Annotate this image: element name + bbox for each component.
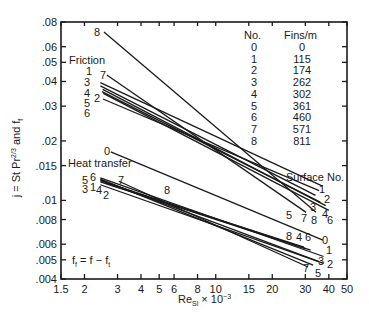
curve-number-label: 6 bbox=[327, 214, 333, 226]
curve-number-label: 5 bbox=[286, 209, 292, 221]
curve-number-label: 8 bbox=[286, 230, 292, 242]
formula-label: ff = f − ft bbox=[72, 254, 110, 268]
table-cell-fins: 361 bbox=[293, 100, 311, 112]
y-tick-label: .06 bbox=[42, 41, 57, 53]
curve-number-label: 0 bbox=[104, 145, 110, 157]
curve-number-label: 7 bbox=[303, 262, 309, 274]
chart: 1.5234568101520304050 .004.005.006.008.0… bbox=[0, 0, 369, 327]
y-tick-label: .004 bbox=[36, 273, 57, 285]
curve-friction-3 bbox=[100, 86, 315, 196]
curve-friction-8 bbox=[104, 32, 316, 212]
curve-heat-transfer-8 bbox=[106, 183, 304, 247]
table-cell-fins: 115 bbox=[293, 53, 311, 65]
curve-number-label: 3 bbox=[310, 201, 316, 213]
x-tick-label: 3 bbox=[114, 283, 120, 295]
curve-number-label: 6 bbox=[84, 107, 90, 119]
y-tick-label: .05 bbox=[42, 56, 57, 68]
table-cell-no: 2 bbox=[251, 64, 257, 76]
table-cell-no: 5 bbox=[251, 100, 257, 112]
table-cell-no: 3 bbox=[251, 76, 257, 88]
table-cell-fins: 0 bbox=[299, 41, 305, 53]
table-cell-no: 6 bbox=[251, 111, 257, 123]
x-tick-label: 4 bbox=[138, 283, 144, 295]
curve-number-label: 2 bbox=[94, 92, 100, 104]
x-tick-label: 40 bbox=[323, 283, 335, 295]
table-cell-fins: 302 bbox=[293, 88, 311, 100]
curve-number-label: 8 bbox=[164, 184, 170, 196]
table-cell-no: 7 bbox=[251, 123, 257, 135]
curve-number-label: 4 bbox=[96, 184, 102, 196]
table-header-fins: Fins/m bbox=[284, 29, 317, 41]
y-tick-label: .02 bbox=[42, 135, 57, 147]
y-tick-label: .08 bbox=[42, 16, 57, 28]
table-header-no: No. bbox=[244, 29, 261, 41]
curve-number-label: 1 bbox=[326, 244, 332, 256]
curve-number-label: 8 bbox=[311, 214, 317, 226]
table-cell-fins: 571 bbox=[293, 123, 311, 135]
y-tick-label: .006 bbox=[36, 238, 57, 250]
curve-number-label: 5 bbox=[315, 267, 321, 279]
table-cell-fins: 811 bbox=[293, 135, 311, 147]
curve-number-label: 3 bbox=[82, 183, 88, 195]
x-tick-label: 5 bbox=[156, 283, 162, 295]
y-tick-label: .005 bbox=[36, 254, 57, 266]
table-cell-no: 1 bbox=[251, 53, 257, 65]
x-tick-label: 15 bbox=[243, 283, 255, 295]
curve-number-label: 8 bbox=[94, 26, 100, 38]
surface-no-label: Surface No. bbox=[286, 171, 344, 183]
y-tick-label: .015 bbox=[36, 160, 57, 172]
x-axis-label: ReSl × 10−3 bbox=[178, 293, 231, 307]
table-cell-fins: 174 bbox=[293, 64, 311, 76]
curve-number-label: 4 bbox=[296, 231, 302, 243]
heat-transfer-label: Heat transfer bbox=[68, 157, 132, 169]
y-tick-label: .03 bbox=[42, 100, 57, 112]
table-cell-no: 4 bbox=[251, 88, 257, 100]
x-tick-label: 20 bbox=[266, 283, 278, 295]
curve-number-label: 3 bbox=[318, 255, 324, 267]
table-cell-fins: 460 bbox=[293, 111, 311, 123]
y-tick-label: .04 bbox=[42, 75, 57, 87]
curve-number-label: 7 bbox=[118, 174, 124, 186]
curve-friction-5 bbox=[102, 92, 320, 202]
curve-number-label: 7 bbox=[100, 69, 106, 81]
y-axis-label: j = St Pr2/3 and ff bbox=[10, 119, 24, 199]
curve-number-label: 2 bbox=[324, 193, 330, 205]
curve-number-label: 2 bbox=[103, 189, 109, 201]
x-tick-label: 30 bbox=[299, 283, 311, 295]
legend-table: No. Fins/m 00111521743262430253616460757… bbox=[244, 29, 317, 147]
curve-number-label: 7 bbox=[301, 212, 307, 224]
table-cell-no: 8 bbox=[251, 135, 257, 147]
table-cell-no: 0 bbox=[251, 41, 257, 53]
x-tick-label: 2 bbox=[81, 283, 87, 295]
table-cell-fins: 262 bbox=[293, 76, 311, 88]
y-tick-label: .01 bbox=[42, 194, 57, 206]
x-tick-label: 50 bbox=[341, 283, 353, 295]
curve-number-label: 2 bbox=[327, 258, 333, 270]
y-tick-label: .008 bbox=[36, 214, 57, 226]
x-tick-label: 6 bbox=[171, 283, 177, 295]
curve-number-label: 6 bbox=[305, 231, 311, 243]
